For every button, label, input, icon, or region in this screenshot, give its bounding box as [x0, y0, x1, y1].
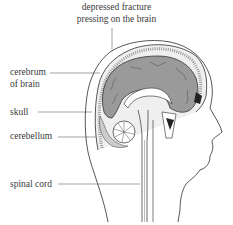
head-cross-section-diagram — [0, 0, 233, 225]
